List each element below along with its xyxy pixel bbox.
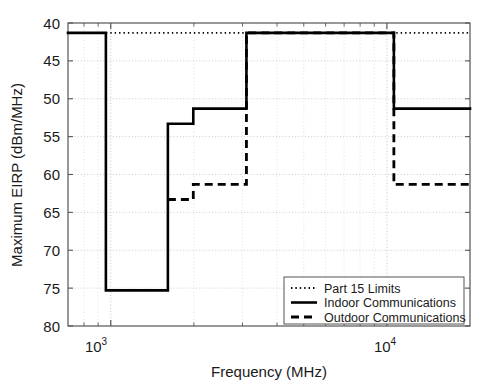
chart-legend: Part 15 LimitsIndoor CommunicationsOutdo… <box>284 277 466 325</box>
x-axis-title: Frequency (MHz) <box>211 363 327 380</box>
y-tick-label: 40 <box>43 15 60 32</box>
y-tick-label: 80 <box>43 318 60 335</box>
x-tick-1-exp: 3 <box>102 336 108 347</box>
chart-figure: 404550556065707580 103 104 Frequency (MH… <box>0 0 489 388</box>
legend-label: Indoor Communications <box>324 296 456 310</box>
eirp-mask-chart: 404550556065707580 103 104 Frequency (MH… <box>0 0 489 388</box>
y-axis-tick-labels: 404550556065707580 <box>43 15 60 335</box>
legend-label: Outdoor Communications <box>324 311 466 325</box>
x-tick-2-base: 10 <box>374 338 391 355</box>
y-tick-label: 75 <box>43 280 60 297</box>
y-tick-label: 50 <box>43 90 60 107</box>
y-tick-label: 55 <box>43 128 60 145</box>
x-tick-1-base: 10 <box>85 338 102 355</box>
y-tick-label: 60 <box>43 166 60 183</box>
y-tick-label: 65 <box>43 204 60 221</box>
legend-label: Part 15 Limits <box>324 282 400 296</box>
y-axis-title: Maximum EIRP (dBm/MHz) <box>8 83 25 267</box>
chart-background <box>0 0 489 388</box>
x-tick-2-exp: 4 <box>391 336 397 347</box>
y-tick-label: 70 <box>43 242 60 259</box>
y-tick-label: 45 <box>43 52 60 69</box>
